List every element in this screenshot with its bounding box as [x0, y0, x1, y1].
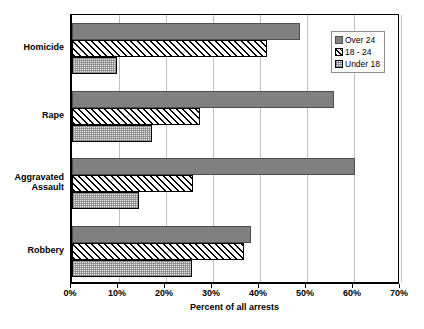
x-tick-label-10: 10%: [108, 288, 126, 298]
bar[interactable]: [72, 108, 200, 125]
bar[interactable]: [72, 40, 267, 57]
bar[interactable]: [72, 57, 117, 74]
bar-row: [72, 243, 398, 260]
bar[interactable]: [72, 226, 251, 243]
x-tick-label-0: 0%: [63, 288, 76, 298]
x-tick-label-20: 20%: [155, 288, 173, 298]
bar[interactable]: [72, 91, 334, 108]
legend-swatch-dotted-light: [335, 60, 343, 68]
x-tick-label-60: 60%: [343, 288, 361, 298]
legend-swatch-solid-gray: [335, 36, 343, 44]
bar-group: [72, 83, 398, 151]
legend-item-label: Under 18: [345, 59, 380, 69]
category-label-homicide: Homicide: [23, 42, 64, 53]
x-axis-title: Percent of all arrests: [70, 302, 399, 312]
legend-swatch-diagonal-hatch: [335, 48, 343, 56]
bar-group: [72, 150, 398, 218]
bar[interactable]: [72, 125, 152, 142]
x-axis-tick-labels: 0%10%20%30%40%50%60%70%: [0, 288, 424, 302]
category-label-robbery: Robbery: [27, 245, 64, 256]
bar[interactable]: [72, 23, 300, 40]
bar-row: [72, 91, 398, 108]
bar-row: [72, 158, 398, 175]
bar-chart: HomicideRapeAggravated AssaultRobbery 0%…: [0, 0, 424, 329]
bar-group: [72, 218, 398, 286]
bar[interactable]: [72, 243, 244, 260]
bar-row: [72, 125, 398, 142]
bar-row: [72, 175, 398, 192]
x-tick-label-50: 50%: [296, 288, 314, 298]
legend-item-label: 18 - 24: [345, 47, 371, 57]
category-label-aggravated-assault: Aggravated Assault: [14, 172, 64, 193]
bar-row: [72, 260, 398, 277]
legend-item[interactable]: 18 - 24: [335, 47, 380, 57]
bar[interactable]: [72, 175, 193, 192]
bar[interactable]: [72, 260, 192, 277]
bar[interactable]: [72, 192, 139, 209]
legend-item[interactable]: Under 18: [335, 59, 380, 69]
bar-row: [72, 226, 398, 243]
x-tick-label-70: 70%: [390, 288, 408, 298]
x-tick-label-30: 30%: [202, 288, 220, 298]
bar-row: [72, 192, 398, 209]
legend-item[interactable]: Over 24: [335, 35, 380, 45]
bar-row: [72, 108, 398, 125]
chart-legend: Over 2418 - 24Under 18: [331, 31, 385, 73]
category-label-rape: Rape: [42, 110, 64, 121]
gridline-70: [401, 15, 402, 282]
bar[interactable]: [72, 158, 355, 175]
legend-item-label: Over 24: [345, 35, 375, 45]
x-tick-label-40: 40%: [249, 288, 267, 298]
